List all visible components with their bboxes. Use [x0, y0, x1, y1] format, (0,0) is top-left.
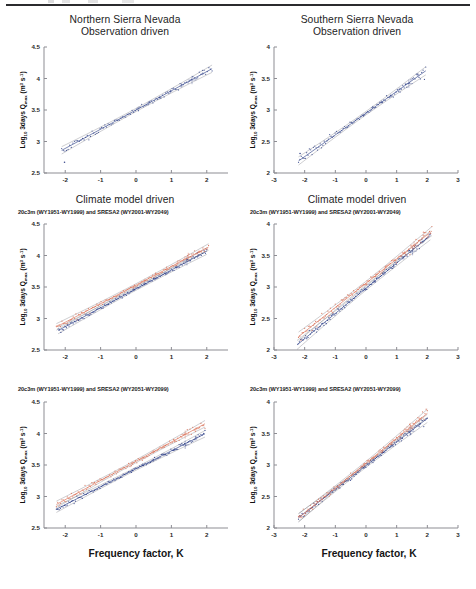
data-point [75, 501, 76, 502]
data-point [396, 262, 397, 263]
data-point [88, 308, 89, 309]
data-point [178, 444, 179, 445]
data-point [392, 439, 393, 440]
data-point [162, 447, 163, 448]
data-point [127, 288, 128, 289]
data-point [368, 280, 369, 281]
data-point [381, 275, 382, 276]
data-point [60, 508, 61, 509]
data-point [73, 494, 74, 495]
x-tick-label: 2 [205, 353, 209, 360]
page-header-remnant [48, 0, 188, 3]
data-point [89, 312, 90, 313]
data-point [342, 482, 343, 483]
data-point [114, 480, 115, 481]
data-point [311, 331, 312, 332]
data-point [322, 322, 323, 323]
data-point [174, 264, 175, 265]
data-point [370, 110, 371, 111]
confidence-band-lower [56, 437, 205, 512]
quantile-marker [201, 72, 204, 75]
data-point [172, 265, 173, 266]
data-point [63, 329, 64, 330]
data-point [116, 473, 117, 474]
data-point [332, 313, 333, 314]
data-point [96, 303, 97, 304]
data-point [79, 319, 80, 320]
data-point [328, 139, 329, 140]
data-point [392, 267, 393, 268]
data-point [75, 494, 76, 495]
data-point [343, 298, 344, 299]
data-point [109, 124, 110, 125]
outlier-point [64, 162, 66, 164]
x-tick-label: -2 [62, 176, 68, 183]
data-point [361, 289, 362, 290]
data-point [337, 486, 338, 487]
data-point [58, 509, 59, 510]
data-point [75, 321, 76, 322]
data-point [344, 126, 345, 127]
data-point [129, 471, 130, 472]
y-tick-label: 2.5 [31, 346, 40, 353]
data-point [187, 82, 188, 83]
data-point [199, 436, 200, 437]
y-tick-label: 2.5 [261, 314, 270, 321]
data-point [155, 98, 156, 99]
data-point [107, 123, 108, 124]
data-point [90, 136, 91, 137]
plot-north-2001-2049: 2.533.544.5-2-1012 Log10 3days Qmax (m3 … [14, 216, 236, 366]
data-point [148, 462, 149, 463]
data-point [416, 74, 417, 75]
data-point [66, 327, 67, 328]
data-point [78, 319, 79, 320]
y-tick-label: 2.5 [261, 138, 270, 145]
data-point [193, 430, 194, 431]
data-point [98, 307, 99, 308]
data-point [346, 478, 347, 479]
data-point [151, 452, 152, 453]
data-point [112, 480, 113, 481]
data-point [56, 506, 57, 507]
data-point [169, 271, 170, 272]
data-point [141, 104, 142, 105]
data-point [84, 312, 85, 313]
data-point [150, 462, 151, 463]
data-point [112, 300, 113, 301]
data-point [88, 314, 89, 315]
data-point [124, 291, 125, 292]
data-point [148, 455, 149, 456]
data-point [378, 277, 379, 278]
data-point [161, 274, 162, 275]
data-point [71, 493, 72, 494]
data-point [144, 463, 145, 464]
data-point [353, 290, 354, 291]
data-point [154, 457, 155, 458]
data-point [204, 250, 205, 251]
data-point [123, 467, 124, 468]
data-point [336, 131, 337, 132]
data-point [198, 428, 199, 429]
data-point [101, 307, 102, 308]
data-point [155, 459, 156, 460]
data-point [138, 467, 139, 468]
data-point [368, 112, 369, 113]
data-point [152, 280, 153, 281]
data-point [73, 323, 74, 324]
data-point [336, 313, 337, 314]
data-point [178, 440, 179, 441]
data-point [411, 245, 412, 246]
data-point [307, 509, 308, 510]
data-point [385, 447, 386, 448]
x-tick-label: -1 [98, 176, 104, 183]
data-point [407, 250, 408, 251]
data-point [410, 252, 411, 253]
data-point [95, 484, 96, 485]
row2-title-right: Climate model driven [244, 194, 470, 206]
data-point [63, 150, 64, 151]
data-point [120, 477, 121, 478]
data-point [336, 306, 337, 307]
data-point [200, 434, 201, 435]
data-point [422, 237, 423, 238]
data-point [378, 104, 379, 105]
